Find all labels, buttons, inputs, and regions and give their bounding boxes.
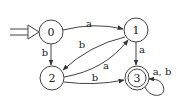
state-0: 0 (39, 20, 63, 44)
edge-label-1-2: b (79, 39, 85, 50)
edge-label-0-2: b (42, 47, 48, 58)
state-2: 2 (40, 66, 64, 90)
automaton-diagram: a b b a a b a, b 0 1 2 3 (0, 0, 177, 101)
state-1: 1 (124, 18, 148, 42)
state-label-2: 2 (49, 72, 56, 85)
start-arrow-icon (10, 25, 39, 39)
edge-label-2-3: b (92, 72, 98, 83)
state-3-accepting: 3 (125, 66, 149, 90)
edge-label-3-3: a, b (153, 66, 172, 77)
state-label-1: 1 (133, 24, 140, 37)
state-label-3: 3 (134, 72, 141, 85)
edge-label-0-1: a (86, 18, 92, 29)
state-label-0: 0 (48, 26, 55, 39)
edge-0-1 (63, 26, 123, 30)
edge-label-1-3: a (139, 44, 145, 55)
edge-label-2-1: a (103, 60, 109, 71)
